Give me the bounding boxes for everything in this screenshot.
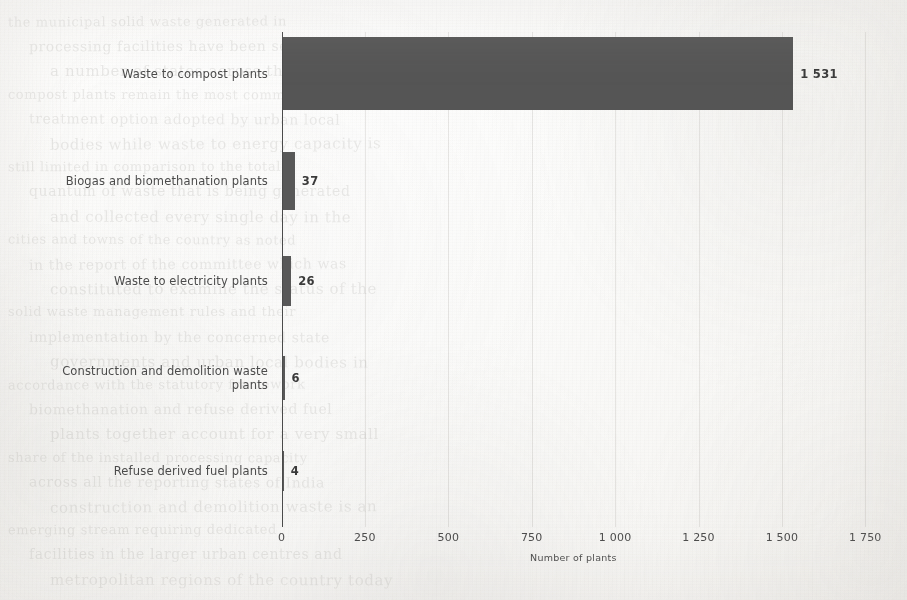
value-label-1: 37 [302,174,319,188]
category-label-1: Biogas and biomethanation plants [28,165,268,197]
category-label-3: Construction and demolition waste plants [28,362,268,394]
x-tick-1250: 1 250 [682,531,715,544]
value-label-3: 6 [292,371,300,385]
bar-2 [283,256,292,306]
category-label-0: Waste to compost plants [28,58,268,90]
bar-0 [283,37,794,110]
bar-4 [283,451,284,491]
value-label-2: 26 [298,274,315,288]
category-label-4: Refuse derived fuel plants [28,455,268,487]
category-label-2: Waste to electricity plants [28,265,268,297]
x-tick-500: 500 [437,531,459,544]
scanned-chart-page: the municipal solid waste generated inpr… [0,0,907,600]
x-tick-1750: 1 750 [849,531,882,544]
x-tick-0: 0 [278,531,285,544]
bar-1 [283,152,295,210]
value-label-4: 4 [291,464,299,478]
x-axis-title: Number of plants [530,552,617,563]
x-tick-750: 750 [521,531,543,544]
x-tick-1000: 1 000 [599,531,632,544]
bar-3 [283,356,285,400]
value-label-0: 1 531 [800,67,838,81]
x-tick-1500: 1 500 [766,531,799,544]
x-tick-250: 250 [354,531,376,544]
bar-chart: Waste to compost plantsBiogas and biomet… [0,0,907,600]
gridline-1750 [865,32,866,527]
